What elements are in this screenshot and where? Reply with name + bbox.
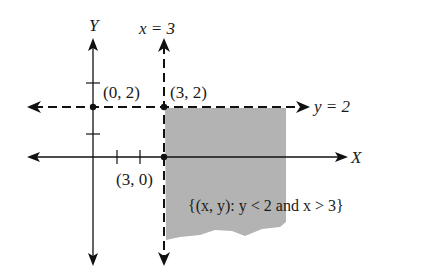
point-3-2 xyxy=(161,104,167,110)
y-axis-label: Y xyxy=(89,17,98,34)
line-x3-label: x = 3 xyxy=(139,20,175,37)
region-set-label: {(x, y): y < 2 and x > 3} xyxy=(188,198,344,214)
inequality-region-diagram: Y x = 3 (0, 2) (3, 2) y = 2 X (3, 0) {(x… xyxy=(0,0,422,274)
x-axis-label: X xyxy=(351,149,361,166)
coordinate-plane xyxy=(0,0,422,274)
point-3-0-label: (3, 0) xyxy=(116,171,153,188)
line-x3-down-arrow-icon xyxy=(158,252,170,266)
point-3-0 xyxy=(161,154,167,160)
point-0-2 xyxy=(90,104,96,110)
line-x3-label-text: x = 3 xyxy=(139,19,175,38)
line-y2-right-arrow-icon xyxy=(296,101,310,113)
line-y2-label: y = 2 xyxy=(314,98,350,115)
point-3-2-label: (3, 2) xyxy=(170,84,207,101)
point-0-2-label: (0, 2) xyxy=(103,84,140,101)
shaded-region xyxy=(165,108,286,240)
